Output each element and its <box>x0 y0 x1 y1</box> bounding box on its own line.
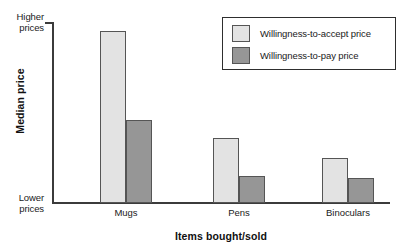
bar-pens-wta <box>213 138 239 203</box>
legend-label-wtp: Willingness-to-pay price <box>260 50 358 61</box>
bar-binoculars-wtp <box>348 178 374 203</box>
bar-mugs-wta <box>100 31 126 203</box>
legend: Willingness-to-accept price Willingness-… <box>222 17 396 70</box>
bar-binoculars-wta <box>322 158 348 203</box>
bar-chart: Higher prices Lower prices Median price … <box>0 0 403 251</box>
legend-swatch-wtp <box>232 47 250 64</box>
bar-mugs-wtp <box>126 120 152 203</box>
bar-pens-wtp <box>239 176 265 203</box>
legend-label-wta: Willingness-to-accept price <box>260 28 371 39</box>
x-axis-category-label-2: Binoculars <box>303 207 393 218</box>
legend-item-wta: Willingness-to-accept price <box>232 24 371 43</box>
legend-swatch-wta <box>232 25 250 42</box>
legend-item-wtp: Willingness-to-pay price <box>232 46 358 65</box>
x-axis-category-label-1: Pens <box>194 207 284 218</box>
x-axis-category-label-0: Mugs <box>81 207 171 218</box>
